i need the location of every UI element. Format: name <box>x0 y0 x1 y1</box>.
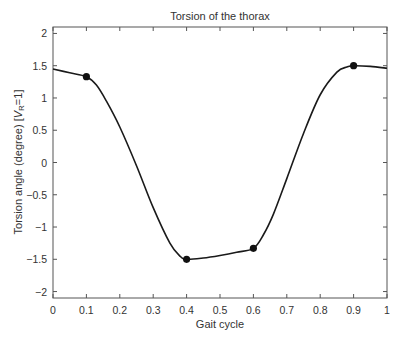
chart-title: Torsion of the thorax <box>170 10 270 22</box>
data-point-marker <box>350 62 357 69</box>
chart: 00.10.20.30.40.50.60.70.80.91−2−1.5−1−0.… <box>0 0 403 340</box>
data-point-marker <box>250 245 257 252</box>
x-tick-label: 0.2 <box>112 304 127 316</box>
y-tick-label: 2 <box>41 27 47 39</box>
y-tick-label: 1 <box>41 92 47 104</box>
y-axis-label: Torsion angle (degree) [VR=1] <box>12 90 26 235</box>
x-tick-label: 0.8 <box>313 304 328 316</box>
y-tick-label: 0 <box>41 157 47 169</box>
data-point-marker <box>183 256 190 263</box>
plot-area: 00.10.20.30.40.50.60.70.80.91−2−1.5−1−0.… <box>26 27 390 316</box>
x-tick-label: 0.5 <box>213 304 228 316</box>
x-tick-label: 1 <box>384 304 390 316</box>
x-tick-label: 0.9 <box>346 304 361 316</box>
x-tick-label: 0.1 <box>79 304 94 316</box>
x-axis-label: Gait cycle <box>196 318 244 330</box>
x-tick-label: 0.6 <box>246 304 261 316</box>
y-tick-label: −1.5 <box>26 253 47 265</box>
y-tick-label: 1.5 <box>32 60 47 72</box>
x-tick-label: 0 <box>50 304 56 316</box>
plot-frame <box>53 27 387 298</box>
y-tick-label: −0.5 <box>26 189 47 201</box>
y-tick-label: 0.5 <box>32 124 47 136</box>
data-point-marker <box>83 73 90 80</box>
y-tick-label: −2 <box>35 286 47 298</box>
y-tick-label: −1 <box>35 221 47 233</box>
x-tick-label: 0.4 <box>179 304 194 316</box>
x-tick-label: 0.3 <box>146 304 161 316</box>
data-line <box>53 66 387 260</box>
x-tick-label: 0.7 <box>279 304 294 316</box>
